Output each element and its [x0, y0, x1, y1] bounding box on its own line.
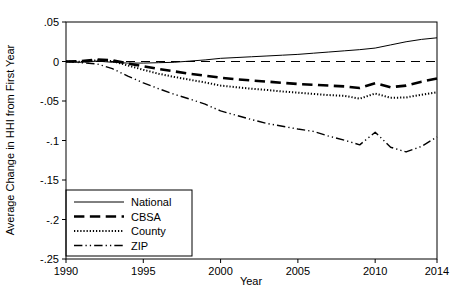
y-tick-label-2: -.05	[40, 95, 59, 107]
y-axis-title: Average Change in HHI from First Year	[4, 44, 16, 235]
x-tick-label-5: 2014	[425, 265, 449, 277]
x-tick-label-1: 1995	[131, 265, 155, 277]
series-line-cbsa	[66, 60, 437, 88]
legend-label-cbsa: CBSA	[131, 211, 162, 223]
y-tick-label-4: -.15	[40, 174, 59, 186]
x-tick-label-4: 2010	[363, 265, 387, 277]
y-tick-label-3: -.1	[46, 135, 59, 147]
series-line-county	[66, 60, 437, 98]
plot-frame	[66, 22, 437, 259]
x-tick-label-0: 1990	[54, 265, 78, 277]
legend-label-county: County	[131, 225, 166, 237]
legend-group: NationalCBSACountyZIP	[74, 196, 171, 252]
legend-label-national: National	[131, 196, 171, 208]
data-series-group	[66, 38, 437, 152]
series-line-national	[66, 38, 437, 63]
legend-label-zip: ZIP	[131, 240, 148, 252]
y-tick-label-0: .05	[44, 16, 59, 28]
chart-figure: .050-.05-.1-.15-.2-.25 19901995200020052…	[0, 0, 456, 303]
y-tick-label-6: -.25	[40, 253, 59, 265]
line-chart: .050-.05-.1-.15-.2-.25 19901995200020052…	[0, 0, 456, 303]
series-line-zip	[66, 62, 437, 152]
y-tick-label-1: 0	[53, 56, 59, 68]
x-tick-label-2: 2000	[208, 265, 232, 277]
y-axis: .050-.05-.1-.15-.2-.25	[40, 16, 66, 265]
y-tick-label-5: -.2	[46, 214, 59, 226]
x-axis-title: Year	[240, 275, 263, 287]
x-tick-label-3: 2005	[286, 265, 310, 277]
legend-box	[66, 190, 192, 256]
